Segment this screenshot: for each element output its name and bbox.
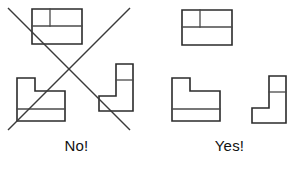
yes-view-front	[172, 78, 220, 121]
yes-view-side	[252, 76, 286, 123]
yes-front-outline	[172, 78, 220, 121]
orthographic-projection-figure: No! Yes!	[0, 0, 306, 172]
yes-view-top	[182, 10, 232, 45]
caption-no: No!	[0, 138, 153, 153]
yes-side-outline	[252, 76, 286, 123]
panel-yes: Yes!	[153, 0, 306, 172]
panel-no: No!	[0, 0, 153, 172]
caption-yes: Yes!	[153, 138, 306, 153]
